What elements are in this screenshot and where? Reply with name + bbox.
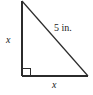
right-angle-marker-icon [22, 68, 30, 76]
triangle-drawing [0, 0, 93, 95]
hypotenuse-line [22, 1, 88, 76]
right-triangle-figure: x x 5 in. [0, 0, 93, 95]
horizontal-leg-label: x [52, 80, 56, 90]
vertical-leg-label: x [6, 35, 10, 45]
hypotenuse-label: 5 in. [54, 23, 72, 33]
